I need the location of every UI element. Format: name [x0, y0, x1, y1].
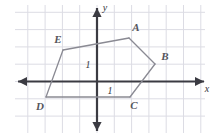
- x-axis-arrow-left: [18, 77, 27, 86]
- polygon-edge-AB: [129, 38, 155, 64]
- vertex-label-B: B: [160, 50, 168, 62]
- unit-tick-label-y: 1: [86, 59, 91, 70]
- coordinate-plane-figure: 11 ABCDExy: [0, 0, 220, 139]
- vertex-label-A: A: [131, 21, 139, 33]
- y-axis-label: y: [102, 2, 108, 13]
- vertex-label-E: E: [53, 33, 61, 45]
- grid-lines: [15, 5, 205, 133]
- y-axis-arrow-down: [92, 122, 101, 131]
- x-axis-label: x: [204, 83, 210, 94]
- polygon-edge-DE: [46, 50, 63, 97]
- axes: [18, 8, 204, 131]
- vertex-label-D: D: [35, 100, 44, 112]
- x-axis-arrow-right: [195, 77, 204, 86]
- coordinate-plane-svg: 11 ABCDExy: [0, 0, 220, 139]
- vertex-label-C: C: [130, 99, 138, 111]
- unit-tick-label-x: 1: [108, 85, 113, 96]
